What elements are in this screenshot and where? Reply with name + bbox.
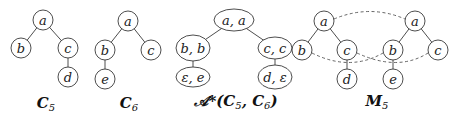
tree-c6: a b c e C6 [95,11,161,113]
svg-text:c, c: c, c [264,41,288,56]
svg-text:b: b [389,43,397,58]
tree-c5: a b c d C5 [11,10,78,113]
node-c: c [58,38,78,58]
node-d: d [58,67,78,87]
node-c-c: c, c [258,37,292,59]
node-right-c: c [428,40,448,60]
svg-text:c: c [64,41,72,56]
svg-text:a: a [39,13,47,28]
node-d-epsilon: d, ε [258,65,292,89]
node-left-b: b [292,40,312,60]
node-right-b: b [383,40,403,60]
svg-text:b: b [17,41,25,56]
node-right-a: a [405,11,425,31]
svg-text:a: a [320,14,328,29]
node-c: c [141,40,161,60]
svg-text:b, b: b, b [181,41,206,56]
tree-alignment-diagram: a b c d C5 a b c e C6 a, a b, b c, c ε, … [0,0,458,118]
caption-c5: C5 [37,94,55,113]
svg-text:ε, e: ε, e [182,70,205,85]
svg-text:b: b [101,43,109,58]
svg-text:b: b [298,43,306,58]
node-e: e [95,69,115,89]
svg-text:d: d [343,72,351,87]
node-epsilon-e: ε, e [176,67,210,87]
svg-text:e: e [101,72,109,87]
node-a: a [118,11,138,31]
caption-astar: 𝒜*(C5, C6) [193,92,277,111]
node-b: b [11,38,31,58]
svg-text:e: e [389,72,397,87]
svg-text:a: a [411,14,419,29]
node-b: b [95,40,115,60]
node-left-c: c [337,40,357,60]
node-a: a [33,10,53,30]
node-left-d: d [337,69,357,89]
svg-text:d: d [64,70,72,85]
mapping-a-a [334,12,405,20]
caption-m5: M5 [365,92,389,111]
svg-text:c: c [147,43,155,58]
mapping-m5: a b c d a b c e M5 [292,11,448,111]
node-left-a: a [314,11,334,31]
svg-text:c: c [343,43,351,58]
svg-text:c: c [434,43,442,58]
node-b-b: b, b [176,35,210,61]
node-a-a: a, a [214,9,254,31]
svg-text:a, a: a, a [222,13,246,28]
svg-text:a: a [124,14,132,29]
tree-alignment-astar: a, a b, b c, c ε, e d, ε 𝒜*(C5, C6) [176,9,292,111]
caption-c6: C6 [120,94,139,113]
svg-text:d, ε: d, ε [263,70,287,85]
node-right-e: e [383,69,403,89]
